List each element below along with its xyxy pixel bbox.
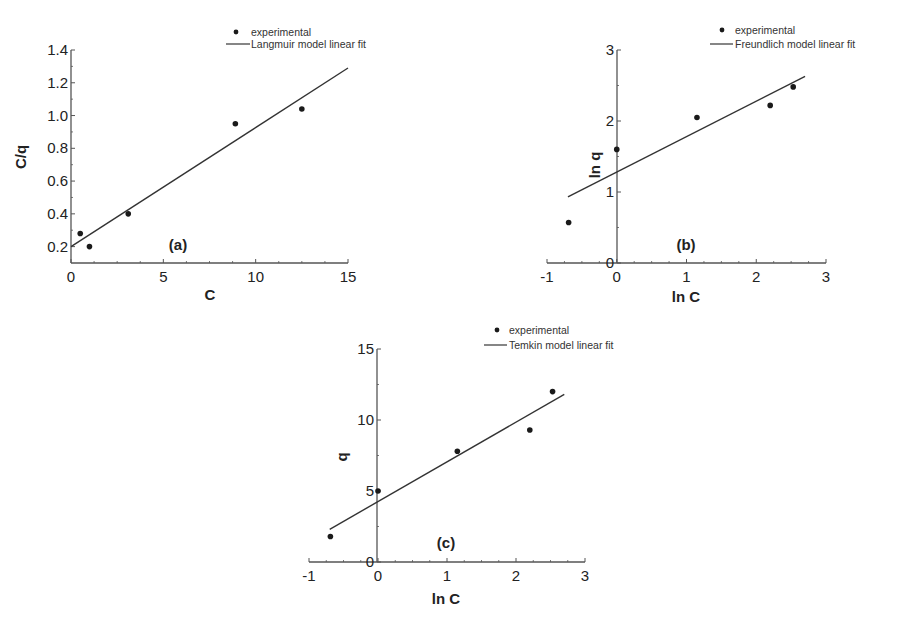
- y-tick-label: 1.2: [47, 74, 68, 91]
- x-tick-label: -1: [302, 567, 315, 584]
- data-point: [550, 389, 556, 395]
- legend-label-fit: Langmuir model linear fit: [251, 38, 366, 50]
- data-point: [527, 427, 533, 433]
- y-axis-title: q: [333, 452, 350, 461]
- legend-label-fit: Temkin model linear fit: [509, 339, 614, 351]
- y-tick-label: 0.6: [47, 172, 68, 189]
- x-tick-label: 3: [581, 567, 589, 584]
- x-tick-label: 10: [247, 268, 264, 285]
- y-tick-label: 2: [606, 112, 614, 129]
- y-tick-label: 1: [606, 183, 614, 200]
- y-tick-label: 15: [357, 340, 374, 357]
- legend-label-experimental: experimental: [509, 324, 569, 336]
- x-axis-title: ln C: [672, 288, 700, 305]
- y-axis-title: C/q: [12, 145, 29, 169]
- data-point: [375, 488, 381, 494]
- y-tick-label: 0: [606, 254, 614, 271]
- data-point: [233, 121, 239, 127]
- fit-line: [568, 76, 805, 197]
- y-tick-label: 0: [366, 553, 374, 570]
- x-tick-label: 1: [682, 268, 690, 285]
- x-tick-label: 5: [159, 268, 167, 285]
- legend-dot-icon: [720, 28, 725, 33]
- data-point: [566, 220, 572, 226]
- data-point: [614, 147, 620, 153]
- y-tick-label: 0.2: [47, 238, 68, 255]
- x-tick-label: 2: [752, 268, 760, 285]
- y-tick-label: 5: [366, 482, 374, 499]
- y-tick-label: 10: [357, 411, 374, 428]
- legend-label-fit: Freundlich model linear fit: [735, 38, 855, 50]
- x-axis-title: ln C: [432, 590, 460, 607]
- chart-panel-freundlich: -101230123ln Cln q(b)experimentalFreundl…: [540, 24, 855, 305]
- data-point: [455, 448, 461, 454]
- y-tick-label: 0.4: [47, 205, 68, 222]
- y-tick-label: 1.0: [47, 107, 68, 124]
- legend: experimentalLangmuir model linear fit: [226, 26, 366, 50]
- data-point: [767, 103, 773, 109]
- fit-line: [71, 68, 348, 247]
- x-tick-label: -1: [540, 268, 553, 285]
- x-tick-label: 2: [512, 567, 520, 584]
- legend-dot-icon: [234, 30, 239, 35]
- x-tick-label: 0: [374, 567, 382, 584]
- y-tick-label: 1.4: [47, 41, 68, 58]
- legend-dot-icon: [495, 328, 500, 333]
- data-point: [328, 534, 334, 540]
- x-axis-title: C: [205, 286, 216, 303]
- legend: experimentalTemkin model linear fit: [484, 324, 614, 351]
- x-tick-label: 0: [67, 268, 75, 285]
- y-axis-title: ln q: [586, 152, 603, 179]
- legend-label-experimental: experimental: [251, 26, 311, 38]
- chart-panel-temkin: -10123051015ln Cq(c)experimentalTemkin m…: [302, 324, 613, 607]
- y-tick-label: 0.8: [47, 139, 68, 156]
- isotherm-figure: 0510150.20.40.60.81.01.21.4CC/q(a)experi…: [0, 0, 900, 634]
- y-tick-label: 3: [606, 41, 614, 58]
- legend: experimentalFreundlich model linear fit: [710, 24, 855, 50]
- data-point: [87, 244, 93, 250]
- data-point: [77, 231, 83, 237]
- chart-panel-langmuir: 0510150.20.40.60.81.01.21.4CC/q(a)experi…: [12, 26, 366, 303]
- panel-label: (a): [169, 236, 187, 253]
- figure-caption-cropped: [10, 626, 890, 634]
- panel-label: (c): [437, 534, 455, 551]
- data-point: [299, 106, 305, 112]
- data-point: [694, 115, 700, 121]
- x-tick-label: 3: [822, 268, 830, 285]
- panel-label: (b): [676, 236, 695, 253]
- data-point: [790, 84, 796, 90]
- x-tick-label: 15: [340, 268, 357, 285]
- legend-label-experimental: experimental: [735, 24, 795, 36]
- x-tick-label: 1: [443, 567, 451, 584]
- data-point: [125, 211, 131, 217]
